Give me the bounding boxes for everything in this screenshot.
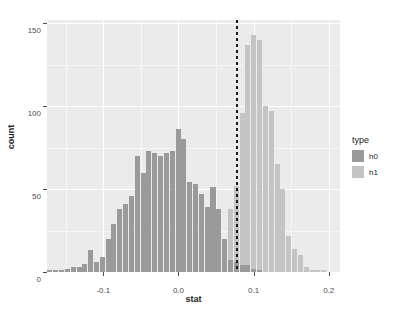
- y-axis-tick: [43, 189, 47, 190]
- histogram-bar: [158, 156, 163, 272]
- y-axis-tick: [43, 272, 47, 273]
- histogram-bar: [170, 151, 175, 272]
- histogram-bar: [181, 139, 186, 272]
- legend-title: type: [352, 135, 414, 145]
- y-axis-tick-label: 50: [32, 192, 41, 201]
- plot-panel: [47, 20, 340, 272]
- histogram-bar: [77, 267, 82, 272]
- histogram-bar: [228, 260, 233, 272]
- x-axis-tick: [329, 272, 330, 276]
- legend-label-h0: h0: [369, 152, 378, 161]
- y-axis-tick-label-wrap: 150: [0, 19, 41, 37]
- histogram-bar: [152, 153, 157, 272]
- histogram-bar: [187, 182, 192, 272]
- histogram-bar: [164, 153, 169, 272]
- histogram-bar: [129, 196, 134, 272]
- histogram-bar: [65, 269, 70, 272]
- histogram-bar: [117, 209, 122, 272]
- chart-figure: 050100150 -0.10.00.10.2 stat count type …: [0, 0, 418, 319]
- histogram-bar: [245, 265, 250, 272]
- histogram-bar: [94, 262, 99, 272]
- histogram-bar: [59, 270, 64, 272]
- x-axis-tick: [178, 272, 179, 276]
- legend-label-h1: h1: [369, 168, 378, 177]
- legend-item-h0[interactable]: h0: [352, 149, 414, 163]
- x-axis-tick: [254, 272, 255, 276]
- legend-key-h0-icon: [352, 150, 364, 162]
- x-axis-title: stat: [47, 294, 340, 304]
- y-axis-tick-label: 150: [28, 26, 41, 35]
- histogram-bar: [47, 270, 52, 272]
- histogram-bar: [199, 194, 204, 272]
- histogram-bar: [71, 267, 76, 272]
- histogram-bar: [176, 129, 181, 272]
- histogram-bar: [193, 184, 198, 272]
- y-axis-title: count: [6, 107, 16, 167]
- histogram-bar: [53, 270, 58, 272]
- y-axis-tick-label-wrap: 0: [0, 268, 41, 286]
- histogram-bar: [240, 265, 245, 272]
- histogram-bar: [123, 204, 128, 272]
- histogram-bar: [88, 250, 93, 272]
- y-axis-tick: [43, 106, 47, 107]
- critical-value-line-icon: [236, 20, 238, 272]
- legend-key-h1-icon: [352, 166, 364, 178]
- histogram-bar: [111, 224, 116, 272]
- y-axis-tick-label: 0: [37, 275, 41, 284]
- histogram-bar: [106, 239, 111, 272]
- histogram-bar: [146, 151, 151, 272]
- histogram-bar: [210, 187, 215, 272]
- y-axis-tick-label: 100: [28, 109, 41, 118]
- histogram-bar: [135, 156, 140, 272]
- histogram-bar: [141, 173, 146, 272]
- y-axis-tick: [43, 23, 47, 24]
- histogram-bar: [216, 209, 221, 272]
- legend-item-h1[interactable]: h1: [352, 165, 414, 179]
- y-axis-tick-label-wrap: 50: [0, 185, 41, 203]
- histogram-bar: [222, 239, 227, 272]
- histogram-bar: [205, 207, 210, 272]
- histogram-bar: [100, 257, 105, 272]
- x-axis-tick: [103, 272, 104, 276]
- legend: type h0 h1: [352, 135, 414, 181]
- bar-series-h0: [47, 20, 340, 272]
- histogram-bar: [82, 264, 87, 272]
- histogram-bar: [257, 270, 262, 272]
